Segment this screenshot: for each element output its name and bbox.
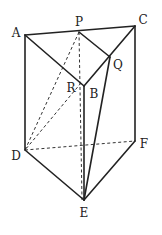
label-C: C: [138, 14, 147, 26]
edge-QE: [84, 57, 110, 200]
prism-diagram: A P C Q R B D F E: [0, 0, 162, 235]
label-Q: Q: [113, 59, 123, 71]
edge-DF: [25, 141, 135, 150]
edge-DE: [25, 150, 84, 200]
label-F: F: [140, 138, 148, 150]
label-P: P: [75, 16, 83, 28]
label-D: D: [11, 150, 21, 162]
edge-PE: [79, 32, 82, 200]
diagram-svg: [0, 0, 162, 235]
edge-EF: [84, 141, 135, 200]
edge-AB: [25, 35, 84, 86]
label-A: A: [12, 27, 21, 39]
label-E: E: [80, 207, 89, 219]
label-B: B: [90, 88, 99, 100]
label-R: R: [66, 82, 75, 94]
edge-PQ: [79, 32, 110, 57]
